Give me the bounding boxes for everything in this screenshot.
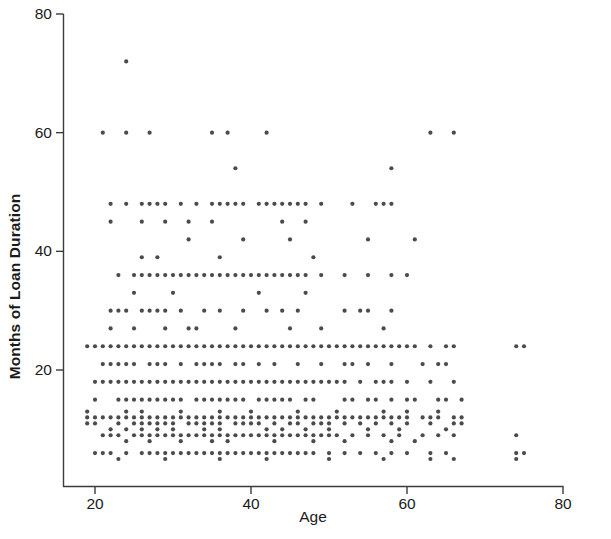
- data-point: [280, 415, 284, 419]
- data-point: [218, 380, 222, 384]
- data-point: [358, 344, 362, 348]
- data-point: [389, 380, 393, 384]
- data-point: [163, 326, 167, 330]
- data-point: [358, 415, 362, 419]
- data-point: [233, 344, 237, 348]
- data-point: [210, 421, 214, 425]
- data-point: [187, 380, 191, 384]
- data-point: [233, 326, 237, 330]
- data-point: [226, 344, 230, 348]
- data-point: [202, 398, 206, 402]
- data-point: [249, 344, 253, 348]
- data-point: [116, 457, 120, 461]
- data-point: [155, 202, 159, 206]
- data-point: [109, 427, 113, 431]
- data-point: [428, 421, 432, 425]
- data-point: [327, 421, 331, 425]
- data-point: [148, 309, 152, 313]
- data-point: [148, 433, 152, 437]
- data-point: [109, 415, 113, 419]
- data-point: [241, 433, 245, 437]
- data-point: [304, 202, 308, 206]
- data-point: [171, 433, 175, 437]
- data-point: [163, 220, 167, 224]
- data-point: [288, 326, 292, 330]
- data-point: [335, 415, 339, 419]
- data-point: [311, 255, 315, 259]
- data-point: [382, 202, 386, 206]
- data-point: [194, 362, 198, 366]
- data-point: [101, 380, 105, 384]
- data-point: [140, 433, 144, 437]
- data-point: [179, 415, 183, 419]
- data-point: [202, 362, 206, 366]
- data-point: [350, 362, 354, 366]
- data-point: [148, 131, 152, 135]
- data-point: [405, 421, 409, 425]
- data-point: [288, 451, 292, 455]
- data-point: [428, 415, 432, 419]
- data-point: [202, 415, 206, 419]
- data-point: [233, 421, 237, 425]
- data-point: [140, 202, 144, 206]
- data-point: [171, 421, 175, 425]
- data-point: [389, 166, 393, 170]
- data-point: [202, 344, 206, 348]
- data-point: [179, 362, 183, 366]
- data-point: [327, 433, 331, 437]
- data-point: [148, 451, 152, 455]
- data-point: [179, 202, 183, 206]
- data-point: [366, 398, 370, 402]
- data-point: [85, 421, 89, 425]
- data-point: [226, 415, 230, 419]
- data-point: [288, 398, 292, 402]
- data-point: [296, 433, 300, 437]
- data-point: [288, 344, 292, 348]
- data-point: [132, 380, 136, 384]
- data-point: [436, 433, 440, 437]
- data-point: [241, 273, 245, 277]
- data-point: [210, 439, 214, 443]
- data-point: [171, 451, 175, 455]
- data-point: [366, 344, 370, 348]
- data-point: [163, 433, 167, 437]
- data-point: [187, 220, 191, 224]
- data-point: [155, 451, 159, 455]
- data-point: [85, 344, 89, 348]
- data-point: [343, 415, 347, 419]
- data-point: [179, 409, 183, 413]
- data-point: [405, 398, 409, 402]
- data-point: [148, 362, 152, 366]
- data-point: [257, 291, 261, 295]
- data-point: [257, 451, 261, 455]
- data-point: [421, 415, 425, 419]
- data-point: [343, 273, 347, 277]
- data-point: [171, 415, 175, 419]
- data-point: [210, 433, 214, 437]
- data-point: [304, 451, 308, 455]
- data-point: [514, 451, 518, 455]
- data-point: [265, 273, 269, 277]
- data-point: [171, 398, 175, 402]
- data-point: [350, 398, 354, 402]
- data-point: [272, 273, 276, 277]
- data-point: [452, 457, 456, 461]
- data-point: [218, 427, 222, 431]
- data-point: [460, 421, 464, 425]
- data-point: [382, 433, 386, 437]
- data-point: [304, 415, 308, 419]
- data-point: [288, 380, 292, 384]
- data-point: [202, 451, 206, 455]
- data-point: [218, 457, 222, 461]
- data-point: [327, 344, 331, 348]
- data-point: [374, 380, 378, 384]
- data-point: [350, 433, 354, 437]
- data-point: [413, 439, 417, 443]
- data-point: [140, 344, 144, 348]
- data-point: [163, 309, 167, 313]
- data-point: [155, 415, 159, 419]
- data-point: [179, 344, 183, 348]
- data-point: [428, 457, 432, 461]
- data-point: [452, 415, 456, 419]
- data-point: [148, 344, 152, 348]
